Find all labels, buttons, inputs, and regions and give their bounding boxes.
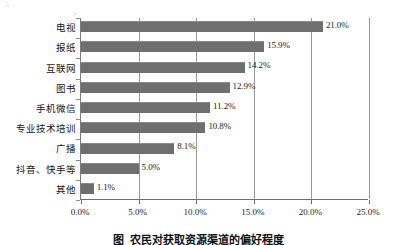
category-label: 报纸	[0, 42, 76, 55]
category-label: 电视	[0, 22, 76, 35]
category-tick	[76, 79, 80, 80]
x-axis-label: 10.0%	[184, 206, 207, 218]
figure-caption: 图 农民对获取资源渠道的偏好程度	[0, 233, 397, 245]
bar-value-label: 11.2%	[213, 100, 235, 113]
tick-mark	[311, 200, 312, 204]
category-tick	[76, 119, 80, 120]
x-axis-label: 5.0%	[128, 206, 147, 218]
bar-row: 1.1%	[81, 180, 368, 200]
tick-mark	[81, 200, 82, 204]
gridline	[369, 18, 370, 199]
bar	[81, 183, 94, 194]
category-label: 其他	[0, 184, 76, 197]
x-axis-label: 25.0%	[356, 206, 379, 218]
bar-row: 11.2%	[81, 99, 368, 119]
bar-value-label: 12.9%	[233, 80, 256, 93]
bar-value-label: 5.0%	[142, 161, 160, 174]
bar-row: 8.1%	[81, 139, 368, 159]
category-tick	[76, 99, 80, 100]
x-axis-label: 0.0%	[71, 206, 90, 218]
category-tick	[76, 38, 80, 39]
category-label: 手机微信	[0, 103, 76, 116]
bar-value-label: 10.8%	[208, 120, 231, 133]
category-tick	[76, 180, 80, 181]
bar-value-label: 14.2%	[248, 59, 271, 72]
category-label: 抖音、快手等	[0, 164, 76, 177]
bar-chart-figure: 21.0%15.9%14.2%12.9%11.2%10.8%8.1%5.0%1.…	[0, 0, 397, 245]
caption-prefix: 图	[113, 234, 124, 245]
tick-mark	[196, 200, 197, 204]
bar-value-label: 8.1%	[177, 140, 195, 153]
bar	[81, 62, 245, 73]
category-tick	[76, 200, 80, 201]
bar-row: 5.0%	[81, 160, 368, 180]
category-tick	[76, 58, 80, 59]
tick-mark	[139, 200, 140, 204]
bar-value-label: 1.1%	[97, 181, 115, 194]
category-tick	[76, 139, 80, 140]
scan-speckle	[6, 5, 9, 6]
bar	[81, 102, 210, 113]
category-label: 广播	[0, 143, 76, 156]
bar-value-label: 21.0%	[326, 19, 349, 32]
category-label: 图书	[0, 83, 76, 96]
bar-row: 12.9%	[81, 79, 368, 99]
bar	[81, 41, 264, 52]
bar	[81, 122, 205, 133]
bar-row: 14.2%	[81, 58, 368, 78]
category-label: 专业技术培训	[0, 123, 76, 136]
bar	[81, 143, 174, 154]
tick-mark	[254, 200, 255, 204]
tick-mark	[369, 200, 370, 204]
bar-row: 21.0%	[81, 18, 368, 38]
category-tick	[76, 18, 80, 19]
scan-speckle	[74, 13, 76, 15]
bar-row: 10.8%	[81, 119, 368, 139]
x-axis-label: 15.0%	[241, 206, 264, 218]
category-tick	[76, 160, 80, 161]
x-axis-label: 20.0%	[299, 206, 322, 218]
caption-text: 农民对获取资源渠道的偏好程度	[130, 234, 284, 245]
category-label: 互联网	[0, 63, 76, 76]
bar	[81, 163, 139, 174]
bar-row: 15.9%	[81, 38, 368, 58]
plot-area: 21.0%15.9%14.2%12.9%11.2%10.8%8.1%5.0%1.…	[80, 18, 368, 200]
bar	[81, 82, 230, 93]
bar	[81, 21, 323, 32]
bar-value-label: 15.9%	[267, 39, 290, 52]
